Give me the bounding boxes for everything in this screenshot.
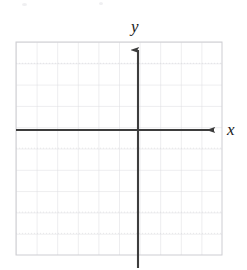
coordinate-grid-svg <box>0 0 247 270</box>
scan-artifact-speck <box>99 2 103 5</box>
coordinate-plane-figure: y x <box>0 0 247 270</box>
y-axis-label: y <box>131 18 139 35</box>
scan-artifact-speck <box>22 3 27 6</box>
x-axis-label: x <box>227 121 235 138</box>
